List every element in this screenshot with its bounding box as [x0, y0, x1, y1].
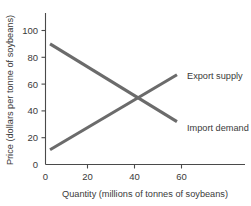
- x-tick-label-0: 0: [43, 171, 48, 182]
- y-tick-label-0: 0: [33, 159, 38, 170]
- series-label-import-demand: Import demand: [187, 123, 249, 133]
- x-tick-label-40: 40: [129, 171, 140, 182]
- x-axis-title: Quantity (millions of tonnes of soybeans…: [62, 189, 228, 199]
- series-line-import-demand: [50, 44, 177, 122]
- x-axis-ticks: [88, 165, 182, 169]
- x-tick-label-60: 60: [176, 171, 187, 182]
- chart-plot-area: 100 80 60 40 20 0 0 20 40 60 Export supp…: [0, 0, 251, 206]
- y-axis-title: Price (dollars per tonne of soybeans): [5, 15, 15, 165]
- x-tick-label-20: 20: [82, 171, 93, 182]
- series-line-export-supply: [50, 75, 177, 150]
- y-axis-ticks: [42, 31, 46, 138]
- series-label-export-supply: Export supply: [187, 71, 243, 81]
- y-tick-label-60: 60: [27, 79, 38, 90]
- y-tick-label-80: 80: [27, 52, 38, 63]
- y-tick-label-40: 40: [27, 105, 38, 116]
- chart-figure: 100 80 60 40 20 0 0 20 40 60 Export supp…: [0, 0, 251, 206]
- y-tick-label-20: 20: [27, 132, 38, 143]
- y-tick-label-100: 100: [22, 25, 38, 36]
